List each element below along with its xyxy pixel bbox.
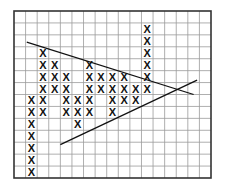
x-mark: X [28,118,36,130]
x-mark: X [144,59,152,71]
x-mark: X [86,94,94,106]
x-mark: X [28,94,36,106]
x-mark: X [120,83,128,95]
x-mark: X [132,83,140,95]
x-mark: X [86,106,94,118]
x-mark: X [120,94,128,106]
x-mark: X [28,130,36,142]
x-mark: X [62,71,70,83]
x-mark: X [144,35,152,47]
x-mark: X [109,83,117,95]
x-mark: X [74,94,82,106]
x-mark: X [51,71,59,83]
x-mark: X [86,83,94,95]
x-mark: X [144,47,152,59]
x-mark: X [51,59,59,71]
x-mark: X [144,23,152,35]
x-mark: X [74,118,82,130]
x-mark: X [62,106,70,118]
x-marks: XXXXXXXXXXXXXXXXXXXXXXXXXXXXXXXXXXXXXXXX… [28,23,152,178]
x-mark: X [109,94,117,106]
x-mark: X [109,106,117,118]
x-mark: X [86,71,94,83]
x-mark: X [74,106,82,118]
x-mark: X [28,106,36,118]
x-mark: X [39,59,47,71]
x-mark: X [51,83,59,95]
x-mark: X [28,154,36,166]
x-mark: X [132,94,140,106]
x-mark: X [39,106,47,118]
x-mark: X [39,83,47,95]
x-mark: X [144,83,152,95]
x-mark: X [62,94,70,106]
x-mark: X [109,71,117,83]
x-mark: X [28,166,36,178]
x-mark: X [28,142,36,154]
x-mark: X [97,71,105,83]
x-mark: X [62,83,70,95]
x-mark: X [97,83,105,95]
x-mark: X [39,94,47,106]
x-mark: X [39,71,47,83]
point-and-figure-chart: XXXXXXXXXXXXXXXXXXXXXXXXXXXXXXXXXXXXXXXX… [0,0,226,187]
